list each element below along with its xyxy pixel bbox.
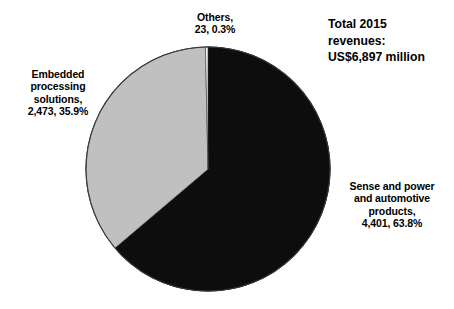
slice-label-embedded-processing: Embedded processing solutions, 2,473, 35… — [2, 68, 114, 118]
chart-title: Total 2015 revenues: US$6,897 million — [328, 16, 454, 66]
slice-label-others: Others, 23, 0.3% — [152, 11, 278, 36]
slice-label-sense-and-power: Sense and power and automotive products,… — [330, 180, 454, 230]
pie-chart-figure: Others, 23, 0.3% Embedded processing sol… — [0, 0, 454, 309]
